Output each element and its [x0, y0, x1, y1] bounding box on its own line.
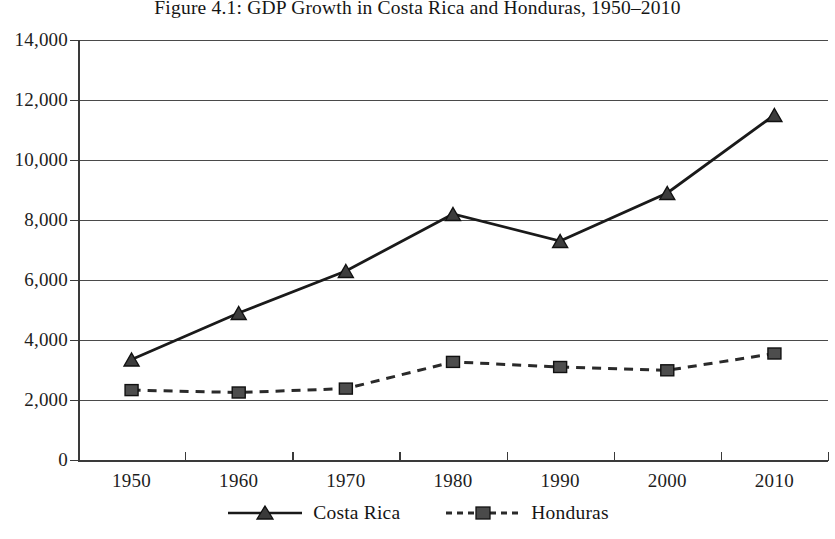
data-point-marker	[447, 356, 460, 367]
data-point-marker	[767, 109, 782, 122]
gridline	[78, 340, 828, 341]
dashed-line-square-marker-icon	[444, 503, 522, 523]
y-tick-label: 10,000	[0, 149, 68, 171]
solid-line-triangle-marker-icon	[226, 503, 304, 523]
data-point-marker	[125, 385, 138, 396]
data-point-marker	[768, 348, 781, 359]
y-tick-label: 0	[0, 449, 68, 471]
x-tick-label: 1990	[505, 470, 615, 492]
x-tick-label: 2010	[719, 470, 829, 492]
chart-legend: Costa Rica Honduras	[0, 502, 835, 524]
gridline	[78, 400, 828, 401]
data-point-marker	[446, 208, 461, 221]
data-point-marker	[661, 365, 674, 376]
gridline	[78, 40, 828, 41]
y-tick-label: 14,000	[0, 29, 68, 51]
series-line-honduras	[132, 354, 775, 393]
x-tick-label: 1970	[291, 470, 401, 492]
x-tick-label: 2000	[612, 470, 722, 492]
gridline	[78, 100, 828, 101]
x-tick-label: 1960	[184, 470, 294, 492]
data-point-marker	[232, 387, 245, 398]
y-axis-line	[78, 40, 80, 461]
y-tick-label: 6,000	[0, 269, 68, 291]
data-point-marker	[660, 187, 675, 200]
gridline	[78, 280, 828, 281]
data-point-marker	[124, 353, 139, 366]
series-plot	[0, 0, 835, 539]
x-tick-mark	[828, 452, 829, 461]
data-point-marker	[554, 362, 567, 373]
y-tick-label: 8,000	[0, 209, 68, 231]
x-tick-label: 1950	[77, 470, 187, 492]
gridline	[78, 160, 828, 161]
data-point-marker	[231, 307, 246, 320]
y-tick-label: 12,000	[0, 89, 68, 111]
legend-item-honduras[interactable]: Honduras	[444, 502, 608, 524]
data-point-marker	[553, 235, 568, 248]
figure-container: Figure 4.1: GDP Growth in Costa Rica and…	[0, 0, 835, 539]
chart-title: Figure 4.1: GDP Growth in Costa Rica and…	[0, 0, 835, 19]
data-point-marker	[339, 383, 352, 394]
series-line-costa-rica	[132, 115, 775, 360]
legend-label-honduras: Honduras	[531, 502, 608, 524]
x-axis-line	[78, 460, 828, 462]
data-point-marker	[338, 265, 353, 278]
y-tick-label: 4,000	[0, 329, 68, 351]
x-tick-label: 1980	[398, 470, 508, 492]
gridline	[78, 220, 828, 221]
legend-item-costa-rica[interactable]: Costa Rica	[226, 502, 400, 524]
legend-label-costa-rica: Costa Rica	[313, 502, 400, 524]
y-tick-label: 2,000	[0, 389, 68, 411]
